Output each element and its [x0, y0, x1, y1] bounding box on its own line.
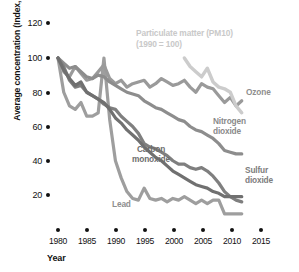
annotation-carbon-monoxide-line2: monoxide — [120, 155, 182, 165]
series-line-pm10 — [184, 58, 241, 113]
annotation-pm10-line2: (1990 = 100) — [136, 39, 233, 50]
series-line-nitrogen-dioxide — [58, 58, 242, 154]
annotation-ozone: Ozone — [246, 88, 271, 98]
x-tick-dot-2010 — [230, 228, 234, 232]
x-axis-title: Year — [47, 253, 66, 263]
annotation-pm10-line1: Particulate matter (PM10) — [136, 28, 233, 39]
x-tick-dot-1990 — [114, 228, 118, 232]
annotation-nitrogen-dioxide: Nitrogen dioxide — [213, 117, 246, 136]
chart-root: Average concentration (Index, 1980 = 100… — [0, 0, 299, 272]
x-tick-dot-1980 — [56, 228, 60, 232]
x-tick-dot-2005 — [201, 228, 205, 232]
x-tick-dot-1995 — [143, 228, 147, 232]
x-tick-dot-1985 — [85, 228, 89, 232]
x-tick-dot-2000 — [172, 228, 176, 232]
annotation-carbon-monoxide: Carbon monoxide — [120, 145, 182, 164]
annotation-sulfur-dioxide: Sulfur dioxide — [245, 166, 273, 185]
x-tick-label-2015: 2015 — [244, 236, 278, 246]
x-tick-dot-2015 — [259, 228, 263, 232]
annotation-sulfur-dioxide-line2: dioxide — [245, 176, 273, 186]
annotation-lead: Lead — [112, 200, 131, 210]
annotation-nitrogen-dioxide-line2: dioxide — [213, 127, 246, 137]
annotation-pm10: Particulate matter (PM10) (1990 = 100) — [136, 28, 233, 49]
